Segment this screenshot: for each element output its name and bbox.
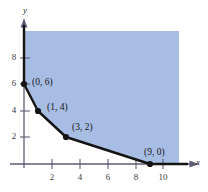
vertex-marker-9-0 bbox=[147, 161, 153, 167]
figure-coordinate-plane: y x 8 6 4 2 2 4 6 8 10 (0, 6) (1, 4) (3,… bbox=[0, 0, 208, 192]
x-tick-label-4: 4 bbox=[75, 173, 85, 182]
y-tick-label-8: 8 bbox=[9, 53, 19, 62]
point-label-1-4: (1, 4) bbox=[47, 103, 68, 113]
point-label-9-0: (9, 0) bbox=[144, 148, 165, 158]
y-axis-label: y bbox=[23, 6, 27, 15]
x-tick-label-2: 2 bbox=[47, 173, 57, 182]
y-tick-label-6: 6 bbox=[9, 79, 19, 88]
vertex-marker-0-6 bbox=[21, 81, 27, 87]
vertex-marker-3-2 bbox=[63, 134, 69, 140]
y-tick-label-4: 4 bbox=[9, 106, 19, 115]
point-label-3-2: (3, 2) bbox=[72, 123, 93, 133]
plot-canvas bbox=[0, 0, 208, 192]
y-tick-label-2: 2 bbox=[9, 132, 19, 141]
x-tick-label-6: 6 bbox=[103, 173, 113, 182]
shaded-region bbox=[24, 31, 179, 164]
point-label-0-6: (0, 6) bbox=[32, 78, 53, 88]
x-tick-label-10: 10 bbox=[155, 173, 171, 182]
vertex-marker-1-4 bbox=[35, 108, 41, 114]
x-axis-label: x bbox=[196, 158, 200, 167]
x-tick-label-8: 8 bbox=[131, 173, 141, 182]
